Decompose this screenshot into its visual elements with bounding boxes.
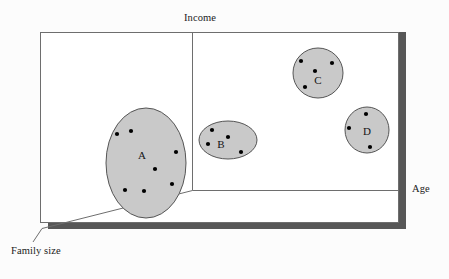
data-point bbox=[174, 150, 178, 154]
diagram-canvas: A B C D bbox=[0, 0, 449, 279]
data-point bbox=[123, 188, 127, 192]
cluster-d-label: D bbox=[363, 125, 371, 137]
cluster-c-label: C bbox=[314, 74, 321, 86]
cluster-diagram-figure: A B C D bbox=[0, 0, 449, 279]
data-point bbox=[142, 189, 146, 193]
data-point bbox=[115, 132, 119, 136]
cluster-b-label: B bbox=[217, 138, 224, 150]
data-point bbox=[170, 182, 174, 186]
data-point bbox=[129, 129, 133, 133]
data-point bbox=[299, 59, 303, 63]
data-point bbox=[303, 85, 307, 89]
income-axis-label: Income bbox=[184, 12, 216, 23]
cluster-c: C bbox=[293, 48, 343, 98]
data-point bbox=[153, 167, 157, 171]
cluster-a-ellipse bbox=[106, 108, 186, 218]
data-point bbox=[330, 61, 334, 65]
cluster-c-ellipse bbox=[293, 48, 343, 98]
cluster-b: B bbox=[199, 121, 257, 159]
cluster-a-label: A bbox=[138, 149, 146, 161]
data-point bbox=[364, 112, 368, 116]
cluster-d: D bbox=[345, 107, 389, 153]
data-point bbox=[210, 128, 214, 132]
family-size-axis-label: Family size bbox=[11, 245, 61, 256]
family-size-leader-line bbox=[33, 229, 42, 243]
data-point bbox=[239, 150, 243, 154]
data-point bbox=[226, 135, 230, 139]
data-point bbox=[347, 126, 351, 130]
age-axis-label: Age bbox=[412, 183, 430, 194]
data-point bbox=[313, 69, 317, 73]
cluster-a: A bbox=[106, 108, 186, 218]
data-point bbox=[368, 145, 372, 149]
data-point bbox=[206, 142, 210, 146]
cluster-b-ellipse bbox=[199, 121, 257, 159]
